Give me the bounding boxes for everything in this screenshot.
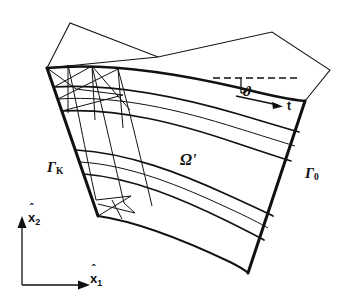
gamma-0-label: Γ0 xyxy=(305,166,319,183)
axis-x2-subscript: 2 xyxy=(35,217,40,227)
bottom-boundary-curve xyxy=(98,216,248,273)
figure-container: ΓK Γ0 Ω' ϑ t ˆx2 ˆx1 xyxy=(0,0,351,306)
gamma-k-subscript: K xyxy=(56,166,63,176)
gamma-k-label: ΓK xyxy=(47,160,63,177)
axis-x1-hat-group: ˆx xyxy=(90,272,97,285)
axis-x2-arrow-icon xyxy=(18,216,27,228)
axis-x1-label: ˆx1 xyxy=(90,272,102,288)
reference-outline-polygon xyxy=(47,23,330,101)
gamma-k-symbol: Γ xyxy=(47,159,56,175)
tangent-vector-label: t xyxy=(287,100,291,112)
theta-angle-label: ϑ xyxy=(243,84,251,99)
coordinate-axes xyxy=(22,224,82,285)
axis-x2-hat: ˆ xyxy=(30,202,34,213)
gamma-0-boundary xyxy=(248,101,305,273)
element-mesh xyxy=(47,65,152,219)
strip-curve-1 xyxy=(58,98,295,146)
diagram-canvas xyxy=(0,0,351,306)
mesh-diagonal-2 xyxy=(54,66,92,87)
mesh-radial-1 xyxy=(68,65,96,200)
top-boundary-curve xyxy=(47,66,305,101)
axis-x1-subscript: 1 xyxy=(97,278,102,288)
omega-prime-label: Ω' xyxy=(180,152,196,168)
axis-x2-label: ˆx2 xyxy=(28,211,40,227)
axis-x1-arrow-icon xyxy=(78,281,90,290)
mesh-radial-3 xyxy=(118,69,152,206)
gamma-0-symbol: Γ xyxy=(305,165,314,181)
band-curve-2 xyxy=(62,111,291,161)
axis-x2-hat-group: ˆx xyxy=(28,211,35,224)
gamma-0-subscript: 0 xyxy=(314,172,319,182)
mesh-diagonal-3 xyxy=(58,69,118,99)
axis-x1-hat: ˆ xyxy=(92,263,96,274)
mesh-diagonal-4 xyxy=(62,95,123,111)
